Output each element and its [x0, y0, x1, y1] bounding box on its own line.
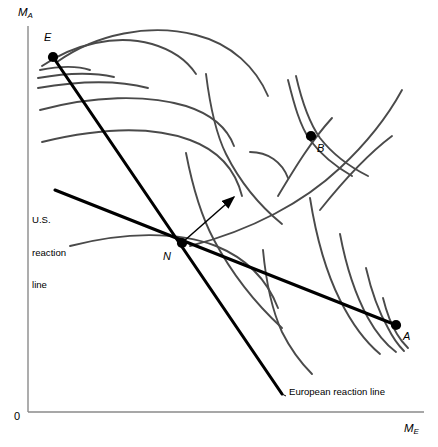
us-contour-5 — [40, 98, 234, 146]
point-label-B: B — [317, 142, 324, 154]
point-markers-group — [48, 52, 401, 330]
us-reaction-line-label-line3: line — [32, 280, 66, 291]
point-label-E: E — [44, 31, 51, 43]
us-contour-6 — [57, 30, 268, 96]
eu-contour-10 — [310, 198, 380, 354]
us-indifference-contours — [38, 30, 278, 308]
eu-contour-5 — [320, 136, 392, 210]
x-axis-label-subscript: E — [414, 427, 419, 436]
eu-contour-7 — [206, 74, 282, 224]
x-axis-label: ME — [404, 422, 419, 437]
eu-contour-12 — [366, 268, 404, 351]
point-marker-A[interactable] — [391, 320, 401, 330]
point-marker-B[interactable] — [306, 131, 316, 141]
european-reaction-line[interactable] — [53, 57, 282, 394]
us-reaction-line-label-line1: U.S. — [32, 215, 66, 226]
eu-contour-1 — [250, 152, 288, 178]
point-marker-N[interactable] — [177, 238, 187, 248]
y-axis-label-text: M — [18, 6, 28, 18]
us-reaction-line-label: U.S. reaction line — [32, 194, 66, 312]
us-reaction-line-label-line2: reaction — [32, 248, 66, 259]
origin-label: 0 — [14, 410, 20, 422]
european-indifference-contours — [186, 74, 408, 374]
eu-contour-11 — [340, 234, 396, 352]
us-contour-8 — [70, 235, 278, 308]
eu-contour-3 — [288, 80, 352, 176]
point-label-A: A — [403, 330, 410, 342]
eu-contour-4 — [296, 76, 368, 176]
us-contour-2 — [38, 74, 114, 78]
x-axis-label-text: M — [404, 422, 414, 434]
us-contour-1 — [40, 67, 90, 70]
point-marker-E[interactable] — [48, 52, 58, 62]
point-label-N: N — [163, 250, 171, 262]
figure-container: MA ME 0 E B N A U.S. reaction line Europ… — [0, 0, 438, 447]
axes-group — [28, 26, 424, 412]
us-contour-3 — [38, 82, 148, 88]
y-axis-label-subscript: A — [28, 11, 33, 20]
y-axis-label: MA — [18, 6, 33, 21]
reaction-lines-group — [53, 57, 396, 394]
european-reaction-line-label: European reaction line — [289, 387, 385, 398]
eu-contour-9 — [263, 250, 312, 374]
